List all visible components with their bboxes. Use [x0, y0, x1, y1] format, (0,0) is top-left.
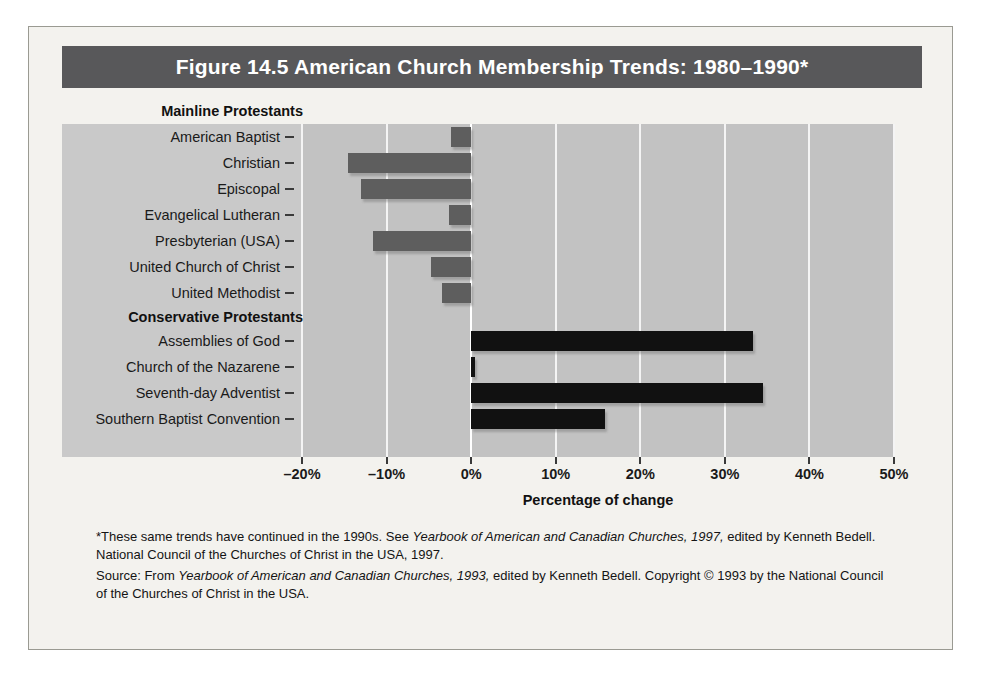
x-tick-label--10: –10% [368, 466, 405, 482]
group-heading-conservative-protestants: Conservative Protestants [62, 306, 303, 328]
x-tick--10 [386, 457, 388, 464]
group-heading-mainline-protestants: Mainline Protestants [62, 100, 303, 122]
category-tick-mark [285, 214, 294, 216]
category-tick-mark [285, 266, 294, 268]
source-note: Source: From Yearbook of American and Ca… [96, 567, 896, 604]
bar-united-methodist [442, 283, 471, 303]
gridline-20 [639, 124, 641, 457]
bar-southern-baptist-convention [471, 409, 605, 429]
category-label-presbyterian-usa-: Presbyterian (USA) [62, 228, 294, 254]
category-label-seventh-day-adventist: Seventh-day Adventist [62, 380, 294, 406]
x-tick-50 [893, 457, 895, 464]
bar-american-baptist [451, 127, 471, 147]
category-tick-mark [285, 162, 294, 164]
category-label-assemblies-of-god: Assemblies of God [62, 328, 294, 354]
footnote-title-italic: Yearbook of American and Canadian Church… [413, 529, 724, 544]
category-label-text: Christian [223, 155, 280, 171]
category-label-church-of-the-nazarene: Church of the Nazarene [62, 354, 294, 380]
category-axis: Mainline ProtestantsAmerican BaptistChri… [62, 124, 302, 457]
x-tick-20 [639, 457, 641, 464]
gridline-30 [724, 124, 726, 457]
category-label-episcopal: Episcopal [62, 176, 294, 202]
figure-notes: *These same trends have continued in the… [96, 528, 896, 606]
category-label-text: American Baptist [170, 129, 280, 145]
category-tick-mark [285, 292, 294, 294]
chart-container: Mainline ProtestantsAmerican BaptistChri… [62, 100, 922, 520]
x-tick-label-10: 10% [541, 466, 570, 482]
category-tick-mark [285, 136, 294, 138]
bar-episcopal [361, 179, 471, 199]
category-label-text: Episcopal [217, 181, 280, 197]
category-label-united-church-of-christ: United Church of Christ [62, 254, 294, 280]
notes-divider [62, 519, 922, 520]
bar-church-of-the-nazarene [471, 357, 474, 377]
footnote-text-a: *These same trends have continued in the… [96, 529, 413, 544]
category-label-text: Assemblies of God [158, 333, 280, 349]
category-tick-mark [285, 240, 294, 242]
category-label-text: Seventh-day Adventist [136, 385, 280, 401]
x-tick-label-50: 50% [879, 466, 908, 482]
bar-christian [348, 153, 471, 173]
bar-assemblies-of-god [471, 331, 753, 351]
bar-presbyterian-usa- [373, 231, 471, 251]
category-label-text: United Methodist [171, 285, 280, 301]
gridline-10 [555, 124, 557, 457]
x-tick-label-20: 20% [626, 466, 655, 482]
x-tick-label--20: –20% [283, 466, 320, 482]
x-tick-40 [808, 457, 810, 464]
figure-root: Figure 14.5 American Church Membership T… [0, 0, 987, 685]
category-tick-mark [285, 366, 294, 368]
gridline-40 [808, 124, 810, 457]
category-label-christian: Christian [62, 150, 294, 176]
category-label-southern-baptist-convention: Southern Baptist Convention [62, 406, 294, 432]
bar-united-church-of-christ [431, 257, 472, 277]
x-axis: –20%–10%0%10%20%30%40%50% [302, 457, 894, 458]
plot-area [302, 124, 894, 457]
footnote-asterisk: *These same trends have continued in the… [96, 528, 896, 565]
category-tick-mark [285, 340, 294, 342]
category-label-american-baptist: American Baptist [62, 124, 294, 150]
source-text-a: Source: From [96, 568, 178, 583]
category-label-text: Evangelical Lutheran [145, 207, 280, 223]
gridline--10 [386, 124, 388, 457]
x-tick-label-40: 40% [795, 466, 824, 482]
x-tick--20 [301, 457, 303, 464]
x-tick-label-30: 30% [710, 466, 739, 482]
x-tick-0 [470, 457, 472, 464]
category-label-evangelical-lutheran: Evangelical Lutheran [62, 202, 294, 228]
category-label-text: Southern Baptist Convention [95, 411, 280, 427]
figure-title-banner: Figure 14.5 American Church Membership T… [62, 46, 922, 88]
category-label-text: Presbyterian (USA) [155, 233, 280, 249]
x-axis-title: Percentage of change [302, 492, 894, 508]
gridline-50 [893, 124, 895, 457]
x-tick-label-0: 0% [461, 466, 482, 482]
category-tick-mark [285, 392, 294, 394]
category-label-united-methodist: United Methodist [62, 280, 294, 306]
x-tick-10 [555, 457, 557, 464]
category-tick-mark [285, 418, 294, 420]
bar-evangelical-lutheran [449, 205, 471, 225]
source-title-italic: Yearbook of American and Canadian Church… [178, 568, 489, 583]
x-tick-30 [724, 457, 726, 464]
category-tick-mark [285, 188, 294, 190]
category-label-text: Church of the Nazarene [126, 359, 280, 375]
category-label-text: United Church of Christ [129, 259, 280, 275]
bar-seventh-day-adventist [471, 383, 763, 403]
page-title: Figure 14.5 American Church Membership T… [176, 55, 809, 79]
